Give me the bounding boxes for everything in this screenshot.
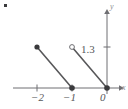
scan-artifact-speck [4,4,7,7]
y-axis-label: y [110,3,114,11]
y-tick-label-1p3: 1.3 [81,44,95,55]
endpoint-filled-neg2-1p3 [34,44,39,49]
segment-left-line [37,47,72,88]
x-axis-label: x [122,84,126,92]
x-tick-label-neg2: −2 [31,92,44,103]
y-axis-arrowhead [104,9,110,14]
endpoint-filled-neg1-0 [69,85,75,91]
endpoint-filled-origin [104,85,110,91]
x-tick-label-neg1: −1 [63,92,76,103]
graph-figure: −2 −1 0 1.3 x y [0,0,128,109]
y-axis [104,9,110,94]
x-tick-label-zero: 0 [100,92,106,103]
endpoint-open-neg1-1p3 [70,45,75,50]
